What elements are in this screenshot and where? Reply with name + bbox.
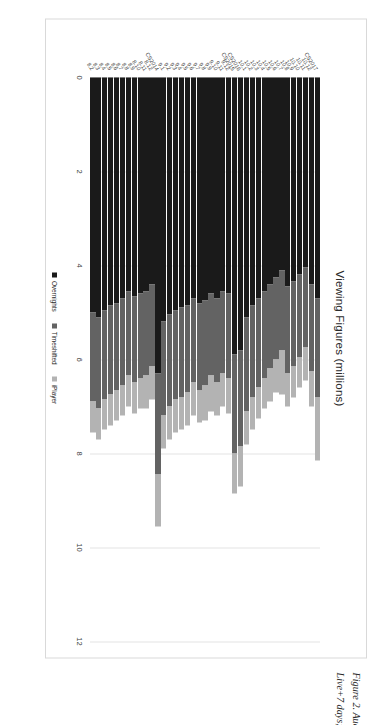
square-swatch-icon xyxy=(52,272,57,277)
bar-row xyxy=(279,77,284,641)
bar-row xyxy=(291,77,296,641)
legend-item: iPlayer xyxy=(51,376,58,404)
bar-row xyxy=(185,77,190,641)
bar-segment-iplayer xyxy=(238,446,243,486)
bar-segment-timeshifted xyxy=(285,286,290,373)
bar-segment-timeshifted xyxy=(273,277,278,359)
bar-segment-timeshifted xyxy=(173,310,178,399)
bar-row xyxy=(155,77,160,641)
bar-segment-timeshifted xyxy=(120,298,125,385)
bar-row xyxy=(161,77,166,641)
bar-segment-timeshifted xyxy=(226,293,231,378)
bar-segment-timeshifted xyxy=(214,298,219,383)
bar-segment-iplayer xyxy=(297,357,302,388)
bar-segment-overnights xyxy=(315,77,320,298)
bar-segment-iplayer xyxy=(232,453,237,493)
bar-segment-iplayer xyxy=(197,390,202,423)
bar-row xyxy=(208,77,213,641)
bar-segment-iplayer xyxy=(256,387,261,418)
bar-row xyxy=(138,77,143,641)
bar-segment-iplayer xyxy=(90,401,95,432)
bar-row xyxy=(244,77,249,641)
bar-segment-overnights xyxy=(244,77,249,317)
bar-segment-timeshifted xyxy=(208,293,213,375)
bar-segment-iplayer xyxy=(220,373,225,406)
bar-segment-iplayer xyxy=(285,373,290,406)
legend-label: Timeshifted xyxy=(51,331,58,364)
value-tick-label: 10 xyxy=(75,543,84,551)
bar-segment-overnights xyxy=(267,77,272,284)
bar-row xyxy=(273,77,278,641)
bar-segment-iplayer xyxy=(108,394,113,425)
bar-segment-overnights xyxy=(120,77,125,298)
bar-segment-iplayer xyxy=(267,368,272,401)
bar-segment-overnights xyxy=(143,77,148,291)
bar-row xyxy=(173,77,178,641)
bar-segment-timeshifted xyxy=(279,270,284,350)
bar-segment-iplayer xyxy=(179,397,184,430)
bar-segment-overnights xyxy=(250,77,255,305)
bar-segment-timeshifted xyxy=(155,373,160,474)
bar-row xyxy=(232,77,237,641)
bar-row xyxy=(256,77,261,641)
legend-label: iPlayer xyxy=(51,384,58,404)
figure-caption: Figure 2. Audience reach for series eigh… xyxy=(332,672,364,725)
bar-segment-iplayer xyxy=(226,378,231,413)
bar-row xyxy=(179,77,184,641)
bar-series-group xyxy=(90,77,320,641)
bar-segment-overnights xyxy=(232,77,237,354)
bar-segment-iplayer xyxy=(161,415,166,448)
bar-row xyxy=(303,77,308,641)
bar-segment-overnights xyxy=(262,77,267,291)
bar-segment-timeshifted xyxy=(102,310,107,399)
bar-segment-overnights xyxy=(256,77,261,298)
bar-segment-overnights xyxy=(214,77,219,298)
chart-title: Viewing Figures (millions) xyxy=(334,19,346,657)
bar-segment-overnights xyxy=(208,77,213,293)
bar-segment-overnights xyxy=(285,77,290,286)
bar-row xyxy=(262,77,267,641)
bar-segment-iplayer xyxy=(262,378,267,409)
bar-segment-iplayer xyxy=(167,406,172,439)
bar-segment-iplayer xyxy=(155,474,160,526)
bar-segment-timeshifted xyxy=(108,305,113,394)
bar-segment-overnights xyxy=(155,77,160,373)
bar-segment-overnights xyxy=(149,77,154,284)
bar-segment-timeshifted xyxy=(179,307,184,396)
bar-segment-timeshifted xyxy=(138,293,143,378)
value-tick-label: 0 xyxy=(75,75,84,79)
bar-segment-timeshifted xyxy=(309,284,314,371)
bar-segment-overnights xyxy=(138,77,143,293)
bar-segment-iplayer xyxy=(279,350,284,395)
bar-segment-iplayer xyxy=(185,392,190,425)
bar-row xyxy=(102,77,107,641)
square-swatch-icon xyxy=(52,323,57,328)
bar-segment-overnights xyxy=(279,77,284,270)
bar-segment-timeshifted xyxy=(250,305,255,397)
bar-segment-timeshifted xyxy=(96,317,101,409)
bar-row xyxy=(96,77,101,641)
bar-segment-iplayer xyxy=(291,366,296,397)
bar-segment-timeshifted xyxy=(262,291,267,378)
bar-row xyxy=(108,77,113,641)
bar-row xyxy=(114,77,119,641)
bar-row xyxy=(250,77,255,641)
bar-segment-timeshifted xyxy=(167,314,172,406)
bar-segment-timeshifted xyxy=(161,321,166,415)
value-tick-label: 6 xyxy=(75,357,84,361)
bar-segment-timeshifted xyxy=(114,303,119,390)
value-tick-label: 2 xyxy=(75,169,84,173)
bar-segment-overnights xyxy=(167,77,172,314)
bar-row xyxy=(120,77,125,641)
chart-legend: OvernightsTimeshiftediPlayer xyxy=(51,19,58,657)
bar-segment-overnights xyxy=(238,77,243,350)
bar-segment-timeshifted xyxy=(90,312,95,401)
value-tick-label: 12 xyxy=(75,637,84,645)
bar-segment-iplayer xyxy=(138,378,143,409)
bar-segment-timeshifted xyxy=(315,298,320,397)
bar-segment-overnights xyxy=(173,77,178,310)
bar-segment-overnights xyxy=(179,77,184,307)
bar-row xyxy=(143,77,148,641)
bar-row xyxy=(202,77,207,641)
bar-segment-timeshifted xyxy=(149,284,154,366)
